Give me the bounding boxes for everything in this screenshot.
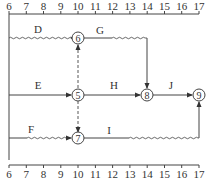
activity-label-J: J xyxy=(169,79,174,91)
svg-text:6: 6 xyxy=(76,33,81,44)
activity-J: J xyxy=(153,79,192,95)
activity-label-E: E xyxy=(35,79,42,91)
activity-F: F xyxy=(9,123,71,139)
bottom-tick-17: 17 xyxy=(194,168,206,180)
activity-label-H: H xyxy=(110,79,118,91)
activity-label-D: D xyxy=(34,23,42,35)
bottom-time-axis: 6 7 8 9 10 11 12 13 14 15 16 17 xyxy=(6,165,205,180)
node-8: 8 xyxy=(141,89,153,101)
bottom-tick-12: 12 xyxy=(107,168,118,180)
activity-label-F: F xyxy=(28,123,34,135)
activity-I: I xyxy=(84,102,199,139)
bottom-tick-7: 7 xyxy=(24,168,30,180)
top-tick-13: 13 xyxy=(124,0,136,12)
activity-label-I: I xyxy=(107,124,111,136)
svg-text:9: 9 xyxy=(197,90,202,101)
bottom-tick-13: 13 xyxy=(124,168,136,180)
node-5: 5 xyxy=(72,89,84,101)
bottom-tick-10: 10 xyxy=(73,168,85,180)
top-tick-15: 15 xyxy=(159,0,171,12)
network-diagram: 6 7 8 9 10 11 12 13 14 15 16 17 D G E xyxy=(0,0,209,192)
node-6: 6 xyxy=(72,32,84,44)
top-tick-12: 12 xyxy=(107,0,118,12)
bottom-tick-9: 9 xyxy=(58,168,64,180)
top-tick-6: 6 xyxy=(6,0,12,12)
bottom-tick-14: 14 xyxy=(142,168,154,180)
top-tick-9: 9 xyxy=(58,0,64,12)
bottom-tick-11: 11 xyxy=(90,168,101,180)
node-7: 7 xyxy=(72,132,84,144)
activity-H: H xyxy=(84,79,140,95)
svg-text:5: 5 xyxy=(76,90,81,101)
bottom-tick-15: 15 xyxy=(159,168,171,180)
svg-text:8: 8 xyxy=(145,90,150,101)
activity-label-G: G xyxy=(96,24,104,36)
top-tick-11: 11 xyxy=(90,0,101,12)
node-9: 9 xyxy=(193,89,205,101)
activity-E: E xyxy=(9,79,71,95)
bottom-tick-16: 16 xyxy=(176,168,188,180)
top-tick-16: 16 xyxy=(176,0,188,12)
top-tick-14: 14 xyxy=(142,0,154,12)
top-time-axis: 6 7 8 9 10 11 12 13 14 15 16 17 xyxy=(6,0,205,14)
activity-D: D xyxy=(9,23,72,39)
bottom-tick-6: 6 xyxy=(6,168,12,180)
bottom-tick-8: 8 xyxy=(41,168,47,180)
top-tick-8: 8 xyxy=(41,0,47,12)
top-tick-17: 17 xyxy=(194,0,206,12)
top-tick-7: 7 xyxy=(24,0,30,12)
top-tick-10: 10 xyxy=(73,0,85,12)
svg-text:7: 7 xyxy=(76,133,81,144)
